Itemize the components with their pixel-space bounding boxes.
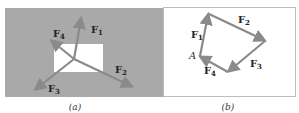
panel-b-frame — [164, 8, 296, 97]
panel-a: F1 F2 F3 F4 (a) — [5, 8, 163, 112]
panel-b: F1 F2 F3 F4 A (b) — [164, 8, 296, 113]
caption-b: (b) — [222, 102, 235, 112]
force-diagram: F1 F2 F3 F4 (a) F1 F2 F3 F4 A (b) — [0, 0, 299, 113]
point-a-label: A — [188, 50, 196, 61]
caption-a: (a) — [69, 102, 82, 112]
